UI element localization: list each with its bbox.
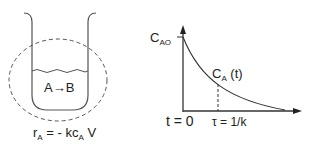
liquid-surface [32,70,88,73]
tau-label: τ = 1/k [212,115,246,129]
curve-label-sub: A [221,74,226,83]
y-axis-arrowhead [180,25,186,34]
x-origin-label: t = 0 [166,113,194,129]
y-axis-label: CAO [150,30,171,45]
rate-prefix-sub: A [37,133,42,142]
curve-label: CA (t) [212,66,243,81]
y-label-main: C [150,30,159,45]
reaction-label: A→B [44,80,74,95]
rate-suffix: V [84,125,96,140]
reactor-tube [24,13,96,110]
curve-label-suffix: (t) [227,66,243,81]
rate-mid-sub: A [78,133,83,142]
curve-label-main: C [212,66,221,81]
rate-equation: rA = - kcA V [33,125,96,140]
y-label-sub: AO [159,38,171,47]
rate-mid: = - kc [43,125,79,140]
x-axis-arrowhead [293,108,302,114]
